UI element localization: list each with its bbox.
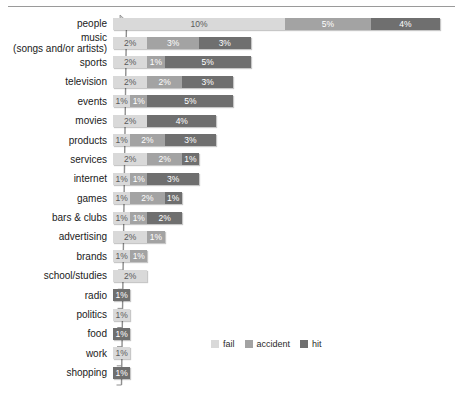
segment-value-label: 1% bbox=[133, 250, 145, 262]
bar-segment-hit: 4% bbox=[371, 18, 440, 30]
stacked-bar: 1% bbox=[113, 328, 130, 340]
legend-item-accident: accident bbox=[245, 339, 291, 349]
bar-track: 2%1% bbox=[113, 227, 463, 246]
bar-segment-accident: 1% bbox=[130, 95, 147, 107]
table-row: movies2%4% bbox=[0, 111, 463, 130]
bar-segment-hit: 3% bbox=[165, 134, 217, 146]
segment-value-label: 5% bbox=[201, 56, 213, 68]
category-label: services bbox=[0, 154, 113, 165]
category-label: work bbox=[0, 348, 113, 359]
bar-track: 1%2%1% bbox=[113, 189, 463, 208]
table-row: people10%5%4% bbox=[0, 14, 463, 33]
table-row: politics1% bbox=[0, 305, 463, 324]
segment-value-label: 4% bbox=[399, 18, 411, 30]
table-row: brands1%1% bbox=[0, 247, 463, 266]
segment-value-label: 1% bbox=[115, 212, 127, 224]
category-label: games bbox=[0, 193, 113, 204]
stacked-bar-chart: people10%5%4%music (songs and/or artists… bbox=[0, 0, 463, 398]
bar-segment-fail: 1% bbox=[113, 95, 130, 107]
stacked-bar: 1%1%5% bbox=[113, 95, 233, 107]
stacked-bar: 2% bbox=[113, 270, 147, 282]
segment-value-label: 1% bbox=[133, 212, 145, 224]
bar-rows: people10%5%4%music (songs and/or artists… bbox=[0, 14, 463, 382]
category-label: radio bbox=[0, 290, 113, 301]
stacked-bar: 10%5%4% bbox=[113, 18, 440, 30]
stacked-bar: 1%2%3% bbox=[113, 134, 216, 146]
bar-segment-fail: 1% bbox=[113, 134, 130, 146]
bar-track: 2% bbox=[113, 266, 463, 285]
table-row: sports2%1%5% bbox=[0, 53, 463, 72]
bar-segment-hit: 1% bbox=[113, 367, 130, 379]
legend-label-fail: fail bbox=[223, 339, 235, 349]
bar-segment-fail: 2% bbox=[113, 37, 147, 49]
legend-item-fail: fail bbox=[211, 339, 235, 349]
table-row: internet1%1%3% bbox=[0, 169, 463, 188]
segment-value-label: 5% bbox=[184, 95, 196, 107]
stacked-bar: 2%2%3% bbox=[113, 76, 233, 88]
segment-value-label: 2% bbox=[124, 231, 136, 243]
category-label: people bbox=[0, 18, 113, 29]
segment-value-label: 1% bbox=[115, 289, 127, 301]
bar-segment-fail: 1% bbox=[113, 192, 130, 204]
segment-value-label: 1% bbox=[115, 328, 127, 340]
bar-track: 1%1%2% bbox=[113, 208, 463, 227]
segment-value-label: 2% bbox=[158, 153, 170, 165]
segment-value-label: 1% bbox=[167, 192, 179, 204]
bar-segment-accident: 1% bbox=[130, 212, 147, 224]
category-label: movies bbox=[0, 115, 113, 126]
bar-segment-accident: 2% bbox=[130, 134, 164, 146]
category-label: events bbox=[0, 96, 113, 107]
stacked-bar: 1%1%3% bbox=[113, 173, 199, 185]
bar-segment-accident: 2% bbox=[147, 153, 181, 165]
bar-segment-hit: 2% bbox=[147, 212, 181, 224]
stacked-bar: 2%1%5% bbox=[113, 56, 251, 68]
category-label: bars & clubs bbox=[0, 212, 113, 223]
category-label: television bbox=[0, 76, 113, 87]
category-label: food bbox=[0, 328, 113, 339]
legend-label-hit: hit bbox=[312, 339, 322, 349]
bar-segment-fail: 2% bbox=[113, 56, 147, 68]
segment-value-label: 3% bbox=[219, 37, 231, 49]
legend-swatch-accident bbox=[245, 340, 253, 348]
table-row: advertising2%1% bbox=[0, 227, 463, 246]
chart-legend: fail accident hit bbox=[211, 339, 322, 349]
segment-value-label: 10% bbox=[190, 18, 207, 30]
bar-segment-accident: 1% bbox=[130, 173, 147, 185]
stacked-bar: 1% bbox=[113, 367, 130, 379]
table-row: games1%2%1% bbox=[0, 189, 463, 208]
segment-value-label: 1% bbox=[184, 153, 196, 165]
segment-value-label: 1% bbox=[133, 173, 145, 185]
bar-track: 1% bbox=[113, 285, 463, 304]
stacked-bar: 1%1%2% bbox=[113, 212, 182, 224]
segment-value-label: 1% bbox=[115, 367, 127, 379]
bar-track: 10%5%4% bbox=[113, 14, 463, 33]
category-label: internet bbox=[0, 173, 113, 184]
bar-segment-hit: 4% bbox=[147, 115, 216, 127]
bar-segment-accident: 2% bbox=[147, 76, 181, 88]
bar-track: 1%2%3% bbox=[113, 130, 463, 149]
segment-value-label: 1% bbox=[133, 95, 145, 107]
table-row: products1%2%3% bbox=[0, 130, 463, 149]
segment-value-label: 1% bbox=[115, 347, 127, 359]
table-row: events1%1%5% bbox=[0, 92, 463, 111]
stacked-bar: 1% bbox=[113, 347, 130, 359]
bar-segment-fail: 2% bbox=[113, 231, 147, 243]
stacked-bar: 1%2%1% bbox=[113, 192, 182, 204]
bar-track: 2%2%1% bbox=[113, 150, 463, 169]
segment-value-label: 1% bbox=[150, 231, 162, 243]
bar-track: 2%1%5% bbox=[113, 53, 463, 72]
bar-segment-accident: 3% bbox=[147, 37, 199, 49]
bar-segment-hit: 3% bbox=[147, 173, 199, 185]
stacked-bar: 1% bbox=[113, 289, 130, 301]
segment-value-label: 2% bbox=[124, 270, 136, 282]
segment-value-label: 2% bbox=[141, 192, 153, 204]
segment-value-label: 1% bbox=[115, 95, 127, 107]
legend-item-hit: hit bbox=[300, 339, 322, 349]
stacked-bar: 2%1% bbox=[113, 231, 165, 243]
legend-swatch-hit bbox=[300, 340, 308, 348]
segment-value-label: 2% bbox=[124, 37, 136, 49]
segment-value-label: 3% bbox=[167, 37, 179, 49]
bar-segment-fail: 1% bbox=[113, 173, 130, 185]
category-label: products bbox=[0, 135, 113, 146]
category-label: sports bbox=[0, 57, 113, 68]
